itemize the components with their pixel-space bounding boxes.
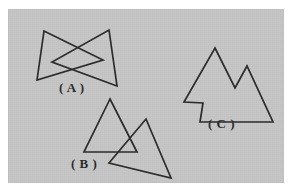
figure-c-mountain-polygon: [184, 48, 273, 122]
figure-a-label: ( A ): [59, 80, 85, 96]
figure-c-label: ( C ): [208, 116, 235, 132]
figure-a-group: [37, 30, 117, 86]
shapes-canvas: [0, 0, 294, 196]
figure-b-label: ( B ): [71, 156, 97, 172]
figure-root: ( A ) ( B ) ( C ): [0, 0, 294, 196]
figure-c-group: [184, 48, 273, 122]
figure-b-upper-left-triangle: [84, 99, 137, 152]
figure-a-right-triangle: [52, 30, 117, 86]
figure-b-lower-right-triangle: [109, 119, 171, 178]
